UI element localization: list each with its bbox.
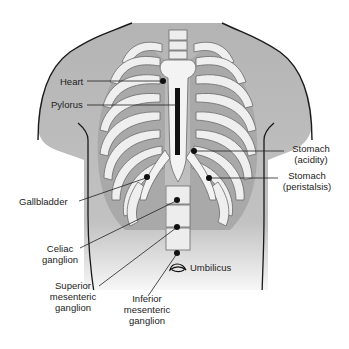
label-heart: Heart — [60, 76, 83, 87]
label-superior-line1: Superior — [45, 280, 101, 291]
label-inferior-mesenteric-ganglion: Inferior mesenteric ganglion — [119, 293, 175, 326]
label-stomach-acidity-line1: Stomach — [286, 143, 336, 154]
label-superior-line3: ganglion — [45, 302, 101, 313]
label-celiac-line1: Celiac — [40, 243, 80, 254]
superior-mesenteric-marker — [174, 224, 180, 230]
label-celiac-line2: ganglion — [40, 254, 80, 265]
stomach-peristalsis-marker — [206, 175, 212, 181]
label-gallbladder: Gallbladder — [19, 196, 68, 207]
label-stomach-peristalsis-line1: Stomach — [278, 170, 336, 181]
gallbladder-marker — [144, 174, 150, 180]
label-stomach-peristalsis: Stomach (peristalsis) — [278, 170, 336, 192]
label-pylorus: Pylorus — [51, 99, 83, 110]
label-celiac-ganglion: Celiac ganglion — [40, 243, 80, 265]
label-inferior-line2: mesenteric — [119, 304, 175, 315]
celiac-ganglion-marker — [174, 197, 180, 203]
label-umbilicus: Umbilicus — [190, 262, 231, 273]
label-inferior-line1: Inferior — [119, 293, 175, 304]
label-stomach-acidity-line2: (acidity) — [286, 154, 336, 165]
label-stomach-peristalsis-line2: (peristalsis) — [278, 181, 336, 192]
label-stomach-acidity: Stomach (acidity) — [286, 143, 336, 165]
pylorus-marker — [175, 88, 180, 155]
label-inferior-line3: ganglion — [119, 315, 175, 326]
label-superior-mesenteric-ganglion: Superior mesenteric ganglion — [45, 280, 101, 313]
stomach-acidity-marker — [191, 148, 197, 154]
inferior-mesenteric-marker — [174, 250, 180, 256]
label-superior-line2: mesenteric — [45, 291, 101, 302]
heart-marker — [160, 78, 166, 84]
